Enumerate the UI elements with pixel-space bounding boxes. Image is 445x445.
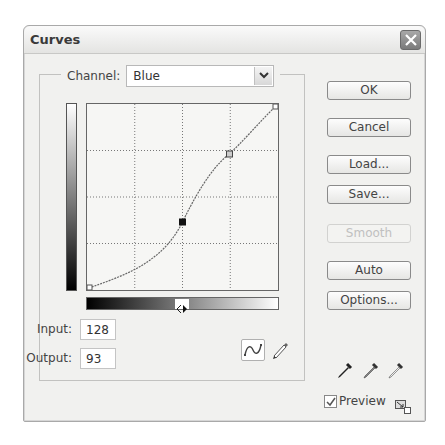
curve-graph[interactable] xyxy=(86,103,279,291)
left-right-arrows-icon xyxy=(175,304,189,314)
chevron-down-icon xyxy=(259,72,269,80)
ok-button[interactable]: OK xyxy=(327,81,411,100)
curve-point-tool-icon xyxy=(242,340,264,360)
white-eyedropper-icon xyxy=(386,360,406,380)
channel-select[interactable]: Blue xyxy=(126,65,274,87)
input-label: Input: xyxy=(22,322,72,336)
expand-icon xyxy=(395,400,411,414)
output-gradient-bar xyxy=(66,103,77,291)
channel-selected-value: Blue xyxy=(133,69,160,83)
channel-dropdown-button[interactable] xyxy=(254,67,272,85)
curve-point-selected xyxy=(179,219,186,226)
close-button[interactable] xyxy=(400,30,421,50)
dialog-title: Curves xyxy=(30,32,80,47)
save-button[interactable]: Save... xyxy=(327,185,411,204)
input-gradient-bar xyxy=(86,297,279,310)
smooth-button[interactable]: Smooth xyxy=(327,224,411,243)
curve-tool-button[interactable] xyxy=(241,339,265,361)
black-eyedropper-icon xyxy=(335,360,355,380)
input-field[interactable]: 128 xyxy=(80,319,116,340)
curve-point-0 xyxy=(87,285,92,290)
gray-eyedropper-icon xyxy=(361,360,381,380)
output-label: Output: xyxy=(22,351,72,365)
curves-dialog: Curves Channel: Blue xyxy=(23,25,426,422)
curve-plot xyxy=(87,104,278,290)
curve-point-3 xyxy=(273,104,278,109)
preview-checkbox-row[interactable]: Preview xyxy=(324,394,386,408)
channel-row: Channel: Blue xyxy=(61,65,280,87)
title-bar[interactable]: Curves xyxy=(24,26,425,54)
cancel-button[interactable]: Cancel xyxy=(327,118,411,137)
channel-label: Channel: xyxy=(67,69,120,83)
pencil-tool-button[interactable] xyxy=(270,340,290,360)
close-x-icon xyxy=(405,34,417,46)
pencil-icon xyxy=(270,340,290,360)
output-field[interactable]: 93 xyxy=(80,348,116,369)
checkmark-icon xyxy=(326,397,336,407)
auto-button[interactable]: Auto xyxy=(327,261,411,280)
white-eyedropper-button[interactable] xyxy=(386,360,406,380)
curve-point-2 xyxy=(227,151,233,157)
gray-eyedropper-button[interactable] xyxy=(361,360,381,380)
expand-dialog-button[interactable] xyxy=(395,399,411,413)
preview-label: Preview xyxy=(339,394,386,408)
gradient-toggle-button[interactable] xyxy=(175,299,189,309)
preview-checkbox[interactable] xyxy=(324,395,337,408)
black-eyedropper-button[interactable] xyxy=(335,360,355,380)
load-button[interactable]: Load... xyxy=(327,155,411,174)
options-button[interactable]: Options... xyxy=(327,291,411,310)
